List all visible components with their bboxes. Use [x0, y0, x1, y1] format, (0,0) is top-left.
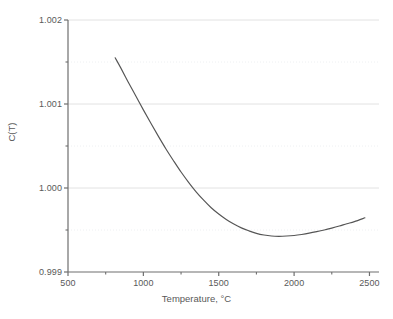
y-axis-title: C(T): [6, 123, 17, 142]
minor-gridlines: [68, 62, 379, 230]
y-tick-label: 1.001: [28, 99, 62, 109]
x-tick-label: 500: [60, 278, 75, 288]
major-gridlines: [68, 20, 379, 188]
x-tick-label: 2000: [284, 278, 304, 288]
x-tick-label: 1500: [209, 278, 229, 288]
x-tick-label: 1000: [133, 278, 153, 288]
y-tick-label: 1.002: [28, 15, 62, 25]
x-axis-title: Temperature, °C: [0, 293, 393, 304]
chart-figure: 0.9991.0001.0011.002 5001000150020002500…: [0, 0, 393, 319]
y-tick-label: 0.999: [28, 267, 62, 277]
data-series-line: [115, 58, 365, 237]
x-tick-label: 2500: [359, 278, 379, 288]
y-tick-label: 1.000: [28, 183, 62, 193]
